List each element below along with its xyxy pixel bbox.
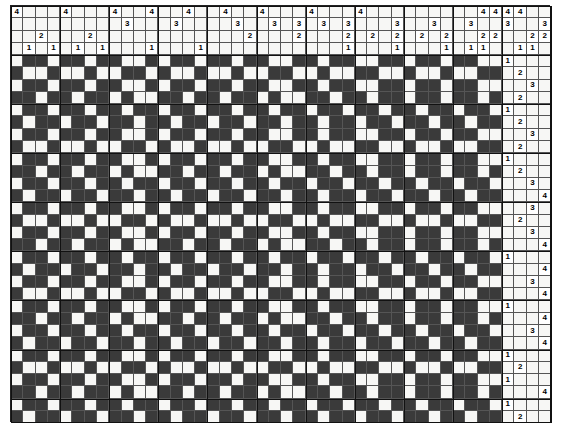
tieup-mark-4[interactable]: 4 [514, 6, 526, 18]
drawdown-cell[interactable] [318, 104, 330, 116]
drawdown-cell[interactable] [281, 153, 293, 165]
drawdown-cell[interactable] [244, 325, 256, 337]
threading-mark-s2-c38[interactable]: 2 [478, 31, 490, 43]
drawdown-cell[interactable] [134, 313, 146, 325]
threading-cell[interactable] [404, 6, 416, 18]
threading-cell[interactable] [171, 6, 183, 18]
drawdown-cell[interactable] [220, 362, 232, 374]
treadling-mark-t2-r7[interactable]: 2 [514, 141, 526, 153]
drawdown-cell[interactable] [244, 350, 256, 362]
drawdown-cell[interactable] [72, 116, 84, 128]
drawdown-cell[interactable] [109, 141, 121, 153]
drawdown-cell[interactable] [416, 251, 428, 263]
threading-cell[interactable] [281, 43, 293, 55]
treadling-mark-t4-r15[interactable]: 4 [539, 239, 551, 251]
drawdown-cell[interactable] [207, 300, 219, 312]
drawdown-cell[interactable] [453, 264, 465, 276]
drawdown-cell[interactable] [441, 399, 453, 411]
threading-cell[interactable] [158, 31, 170, 43]
tieup-cell[interactable] [539, 6, 551, 18]
threading-cell[interactable] [220, 31, 232, 43]
drawdown-cell[interactable] [220, 300, 232, 312]
drawdown-cell[interactable] [171, 362, 183, 374]
drawdown-cell[interactable] [453, 399, 465, 411]
drawdown-cell[interactable] [416, 300, 428, 312]
drawdown-cell[interactable] [416, 190, 428, 202]
drawdown-cell[interactable] [392, 190, 404, 202]
drawdown-cell[interactable] [441, 251, 453, 263]
threading-cell[interactable] [220, 43, 232, 55]
drawdown-cell[interactable] [11, 264, 23, 276]
threading-mark-s2-c27[interactable]: 2 [343, 31, 355, 43]
drawdown-cell[interactable] [306, 399, 318, 411]
drawdown-cell[interactable] [392, 227, 404, 239]
drawdown-cell[interactable] [158, 55, 170, 67]
drawdown-cell[interactable] [465, 80, 477, 92]
drawdown-cell[interactable] [72, 55, 84, 67]
drawdown-cell[interactable] [441, 374, 453, 386]
drawdown-cell[interactable] [478, 190, 490, 202]
drawdown-cell[interactable] [97, 141, 109, 153]
drawdown-cell[interactable] [146, 178, 158, 190]
drawdown-cell[interactable] [244, 153, 256, 165]
tieup-mark-3[interactable]: 3 [539, 18, 551, 30]
drawdown-cell[interactable] [404, 80, 416, 92]
drawdown-cell[interactable] [429, 141, 441, 153]
threading-mark-s4-c20[interactable]: 4 [257, 6, 269, 18]
drawdown-cell[interactable] [478, 215, 490, 227]
treadling-cell[interactable] [539, 411, 551, 423]
drawdown-cell[interactable] [441, 288, 453, 300]
drawdown-cell[interactable] [490, 374, 502, 386]
drawdown-cell[interactable] [490, 386, 502, 398]
threading-cell[interactable] [244, 43, 256, 55]
treadling-cell[interactable] [539, 202, 551, 214]
drawdown-cell[interactable] [48, 411, 60, 423]
tieup-cell[interactable] [527, 6, 539, 18]
drawdown-cell[interactable] [318, 92, 330, 104]
drawdown-cell[interactable] [293, 386, 305, 398]
drawdown-cell[interactable] [72, 300, 84, 312]
threading-cell[interactable] [122, 43, 134, 55]
treadling-cell[interactable] [527, 399, 539, 411]
drawdown-cell[interactable] [293, 129, 305, 141]
drawdown-cell[interactable] [195, 153, 207, 165]
drawdown-cell[interactable] [330, 264, 342, 276]
threading-cell[interactable] [183, 43, 195, 55]
drawdown-cell[interactable] [60, 239, 72, 251]
drawdown-cell[interactable] [207, 215, 219, 227]
drawdown-cell[interactable] [343, 362, 355, 374]
drawdown-cell[interactable] [465, 202, 477, 214]
drawdown-cell[interactable] [122, 80, 134, 92]
treadling-cell[interactable] [527, 337, 539, 349]
drawdown-cell[interactable] [404, 190, 416, 202]
drawdown-cell[interactable] [490, 264, 502, 276]
threading-cell[interactable] [36, 6, 48, 18]
drawdown-cell[interactable] [183, 129, 195, 141]
threading-cell[interactable] [48, 18, 60, 30]
drawdown-cell[interactable] [478, 178, 490, 190]
drawdown-cell[interactable] [257, 288, 269, 300]
drawdown-cell[interactable] [293, 337, 305, 349]
treadling-mark-t4-r17[interactable]: 4 [539, 264, 551, 276]
drawdown-cell[interactable] [23, 362, 35, 374]
drawdown-cell[interactable] [122, 141, 134, 153]
drawdown-cell[interactable] [195, 374, 207, 386]
drawdown-cell[interactable] [355, 411, 367, 423]
drawdown-cell[interactable] [72, 288, 84, 300]
drawdown-cell[interactable] [379, 362, 391, 374]
drawdown-cell[interactable] [318, 67, 330, 79]
drawdown-cell[interactable] [134, 92, 146, 104]
drawdown-cell[interactable] [183, 313, 195, 325]
drawdown-cell[interactable] [97, 386, 109, 398]
drawdown-cell[interactable] [367, 411, 379, 423]
drawdown-cell[interactable] [109, 153, 121, 165]
drawdown-cell[interactable] [72, 166, 84, 178]
drawdown-cell[interactable] [306, 227, 318, 239]
drawdown-cell[interactable] [293, 362, 305, 374]
drawdown-cell[interactable] [72, 190, 84, 202]
drawdown-cell[interactable] [293, 67, 305, 79]
drawdown-cell[interactable] [343, 313, 355, 325]
drawdown-cell[interactable] [367, 227, 379, 239]
drawdown-cell[interactable] [146, 104, 158, 116]
threading-cell[interactable] [220, 18, 232, 30]
